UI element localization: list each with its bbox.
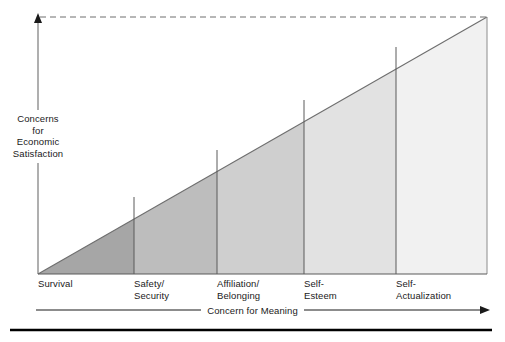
category-label-affiliation-belonging-line-2: Belonging — [217, 290, 260, 302]
band-fill-safety-security — [134, 17, 217, 274]
category-label-affiliation-belonging: Affiliation/Belonging — [217, 278, 260, 301]
category-label-self-actualization-line-2: Actualization — [396, 290, 451, 302]
category-label-affiliation-belonging-line-1: Affiliation/ — [217, 278, 260, 290]
category-label-self-esteem: Self-Esteem — [304, 278, 337, 301]
category-label-self-esteem-line-2: Esteem — [304, 290, 337, 302]
footer-cutoff-caption — [280, 333, 495, 341]
x-axis-label: Concern for Meaning — [0, 305, 505, 316]
band-fill-self-esteem — [304, 17, 396, 274]
y-axis-label-line-2: for — [0, 125, 76, 137]
category-label-self-actualization-line-1: Self- — [396, 278, 451, 290]
y-axis-arrowhead — [34, 13, 42, 23]
category-label-safety-security-line-1: Safety/ — [134, 278, 169, 290]
category-label-safety-security: Safety/Security — [134, 278, 169, 301]
category-label-safety-security-line-2: Security — [134, 290, 169, 302]
category-label-self-actualization: Self-Actualization — [396, 278, 451, 301]
category-label-survival-line-1: Survival — [38, 278, 73, 290]
y-axis-label-line-1: Concerns — [0, 113, 76, 125]
band-fill-self-actualization — [396, 17, 487, 274]
y-axis-label-line-4: Satisfaction — [0, 148, 76, 160]
y-axis-label: ConcernsforEconomicSatisfaction — [0, 113, 76, 159]
figure-hierarchy-of-needs: ConcernsforEconomicSatisfaction Survival… — [0, 0, 505, 342]
y-axis-label-line-3: Economic — [0, 136, 76, 148]
x-axis-label-text: Concern for Meaning — [201, 305, 304, 316]
category-label-self-esteem-line-1: Self- — [304, 278, 337, 290]
category-label-survival: Survival — [38, 278, 73, 290]
band-fill-affiliation — [217, 17, 304, 274]
